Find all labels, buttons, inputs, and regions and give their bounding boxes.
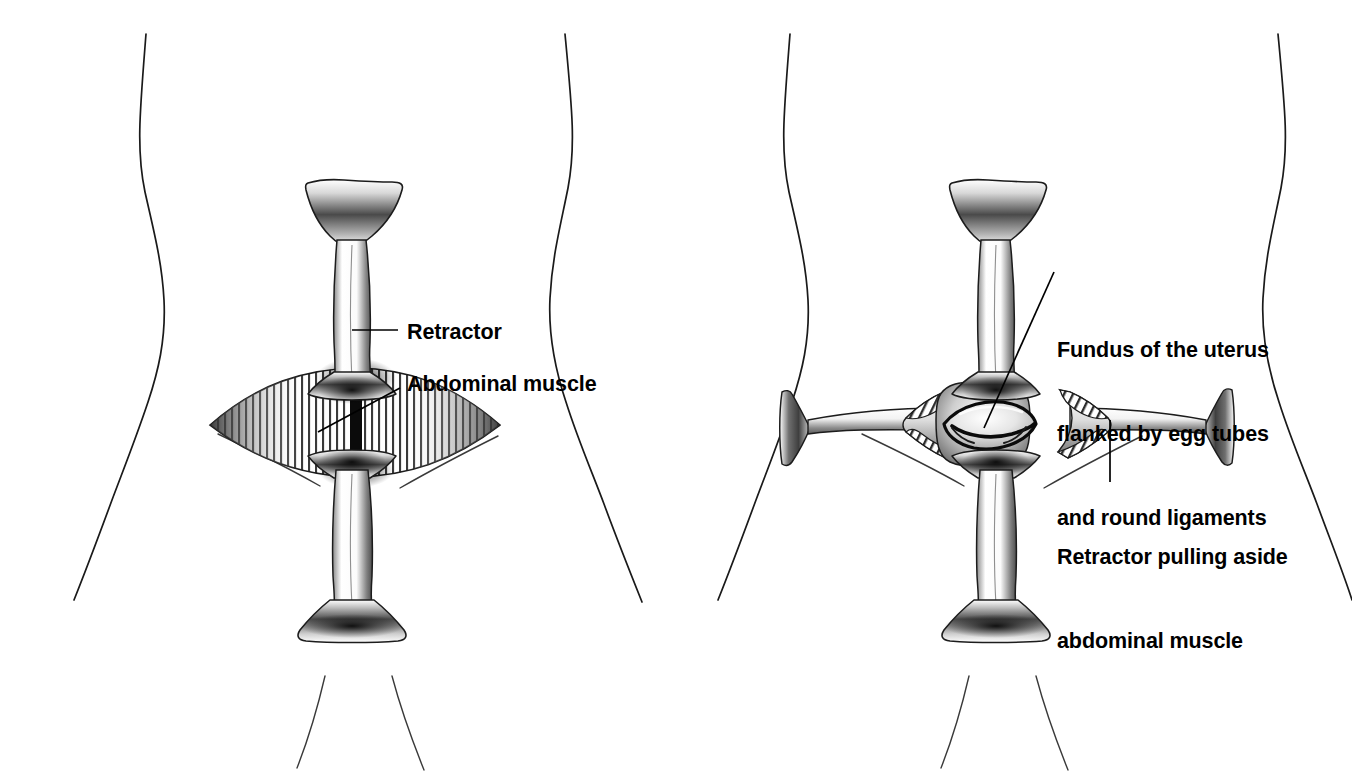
left-figure-thigh-right (392, 676, 424, 770)
retractor-upper-shaft (334, 240, 372, 386)
retractor-upper-foot-shadow (318, 376, 386, 404)
retractor-lower-right-shaft (977, 470, 1017, 608)
label-fundus-line-1: Fundus of the uterus (1057, 336, 1269, 364)
left-figure-body-outline-left (74, 34, 164, 600)
left-figure-thigh-left (297, 676, 325, 768)
label-abdominal-muscle: Abdominal muscle (407, 370, 597, 398)
retractor-upper-right-panel (950, 180, 1047, 404)
left-figure-body-outline-right (550, 34, 642, 602)
retractor-lateral-left-blade (780, 391, 810, 466)
retractor-upper-blade (306, 180, 403, 247)
retractor-upper-right-blade (950, 180, 1047, 247)
illustration-page: Retractor Abdominal muscle Fundus of the… (0, 0, 1352, 777)
label-fundus-line-2: flanked by egg tubes (1057, 420, 1269, 448)
retractor-lower-blade-shadow (300, 614, 404, 638)
retractor-upper-right-shaft (978, 240, 1016, 386)
right-figure-thigh-left (941, 676, 969, 768)
label-retractor-pulling-line-2: abdominal muscle (1057, 627, 1288, 655)
label-retractor: Retractor (407, 318, 502, 346)
right-figure-body-outline-left (718, 34, 808, 600)
retractor-lower-right-panel (942, 448, 1050, 643)
label-retractor-pulling-line-1: Retractor pulling aside (1057, 543, 1288, 571)
label-retractor-pulling-block: Retractor pulling aside abdominal muscle (1057, 487, 1288, 711)
retractor-lower-right-blade-shadow (944, 614, 1048, 638)
retractor-lower-shaft (333, 470, 373, 608)
left-panel-figure (74, 34, 642, 770)
